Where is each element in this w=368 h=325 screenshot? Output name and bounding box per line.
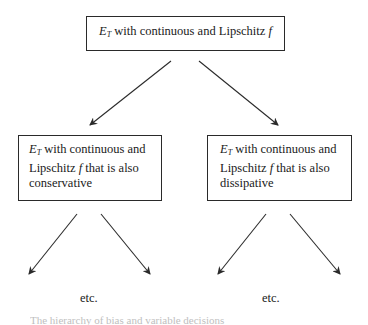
arrow-conservative-to-etc-2 xyxy=(101,214,150,274)
conservative-line1: with continuous and xyxy=(41,142,146,156)
arrow-conservative-to-etc-1 xyxy=(29,214,77,274)
dissipative-line2-suffix: that is also xyxy=(273,161,330,175)
arrow-root-to-dissipative xyxy=(199,61,278,125)
conservative-line2-suffix: that is also xyxy=(82,161,139,175)
dissipative-node: ET with continuous and Lipschitz f that … xyxy=(207,135,352,201)
conservative-line3: conservative xyxy=(29,176,161,192)
conservative-line2-prefix: Lipschitz xyxy=(29,161,79,175)
arrow-dissipative-to-etc-1 xyxy=(218,214,266,274)
arrow-dissipative-to-etc-2 xyxy=(290,214,340,274)
etc-label-left: etc. xyxy=(80,291,98,306)
conservative-symbol: E xyxy=(29,142,37,156)
dissipative-line1: with continuous and xyxy=(232,142,337,156)
root-node: ET with continuous and Lipschitz f xyxy=(86,16,285,51)
dissipative-symbol: E xyxy=(220,142,228,156)
root-text: with continuous and Lipschitz xyxy=(111,24,268,38)
figure-caption-fragment: The hierarchy of bias and variable decis… xyxy=(30,314,224,325)
hierarchy-diagram: ET with continuous and Lipschitz f ET wi… xyxy=(0,0,368,325)
conservative-node: ET with continuous and Lipschitz f that … xyxy=(18,135,162,201)
etc-label-right: etc. xyxy=(262,291,280,306)
dissipative-line3: dissipative xyxy=(220,176,351,192)
dissipative-line2-prefix: Lipschitz xyxy=(220,161,270,175)
arrow-root-to-conservative xyxy=(90,61,171,125)
root-func: f xyxy=(268,24,271,38)
root-symbol: E xyxy=(99,24,107,38)
